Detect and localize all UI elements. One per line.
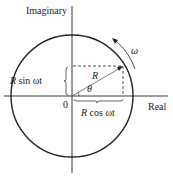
omega-label: ω bbox=[131, 45, 138, 56]
radius-label: R bbox=[91, 70, 98, 81]
sin-label: R sin ωt bbox=[9, 75, 42, 86]
angle-arc bbox=[78, 92, 79, 96]
sin-brace bbox=[64, 67, 68, 95]
angle-label: θ bbox=[87, 83, 92, 94]
cos-label: R cos ωt bbox=[80, 107, 115, 118]
real-label: Real bbox=[148, 101, 167, 112]
imaginary-label: Imaginary bbox=[26, 5, 67, 16]
rotation-arrow-icon bbox=[112, 38, 118, 44]
cos-brace bbox=[74, 99, 123, 103]
radius-arrowhead-icon bbox=[117, 66, 123, 71]
origin-label: 0 bbox=[63, 99, 68, 110]
diagram-svg: Imaginary Real 0 R θ ω R sin ωt R cos ωt bbox=[0, 0, 173, 183]
complex-plane-diagram: Imaginary Real 0 R θ ω R sin ωt R cos ωt bbox=[0, 0, 173, 183]
